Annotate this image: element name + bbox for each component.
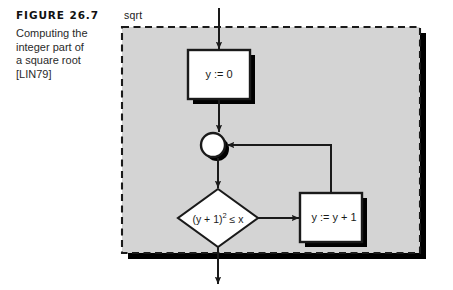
- init-box-label: y := 0: [188, 68, 250, 80]
- sqrt-container-boundary: [122, 27, 420, 253]
- increment-box-label: y := y + 1: [300, 211, 368, 223]
- sqrt-container-label: sqrt: [124, 9, 142, 21]
- merge-junction-node[interactable]: [201, 133, 225, 157]
- decision-diamond-label: (y + 1)2 ≤ x: [172, 211, 264, 225]
- flowchart-canvas: [0, 0, 453, 290]
- flowchart-diagram: sqrt y := 0 (y + 1)2 ≤ x y := y + 1: [0, 0, 453, 290]
